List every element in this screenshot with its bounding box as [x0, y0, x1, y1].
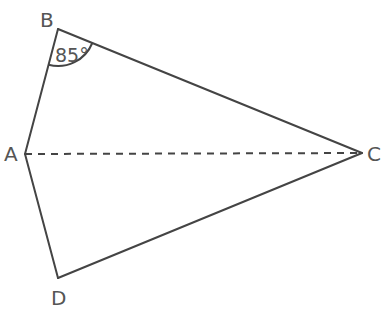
side-bc — [58, 29, 362, 153]
angle-label-b: 85° — [55, 44, 89, 66]
vertex-label-c: C — [367, 142, 381, 166]
diagonal-ac — [25, 153, 362, 154]
vertex-label-a: A — [4, 142, 18, 166]
vertex-label-b: B — [40, 8, 54, 32]
vertex-label-d: D — [51, 286, 66, 310]
side-da — [25, 154, 58, 278]
kite-diagram: 85° B A C D — [0, 0, 388, 318]
side-cd — [58, 153, 362, 278]
side-ab — [25, 29, 58, 154]
